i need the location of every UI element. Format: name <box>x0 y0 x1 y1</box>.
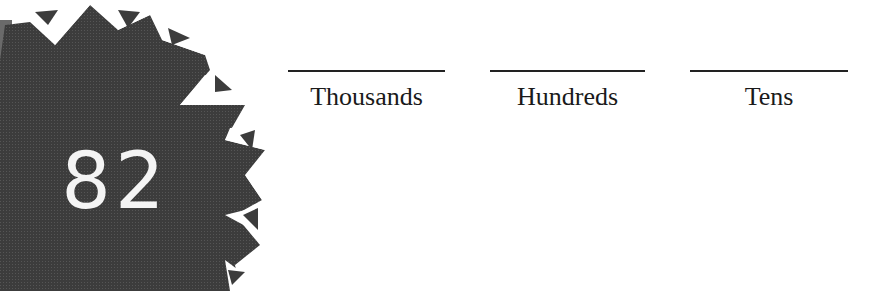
place-label-hundreds: Hundreds <box>490 82 645 112</box>
badge-number: 82 <box>50 136 180 226</box>
answer-blank-line <box>690 70 848 72</box>
answer-blank-line <box>490 70 645 72</box>
answer-blank-line <box>288 70 445 72</box>
place-label-tens: Tens <box>690 82 848 112</box>
place-value-hundreds: Hundreds <box>490 70 645 112</box>
place-value-thousands: Thousands <box>288 70 445 112</box>
place-label-thousands: Thousands <box>288 82 445 112</box>
number-badge: 82 <box>0 0 280 291</box>
place-value-tens: Tens <box>690 70 848 112</box>
